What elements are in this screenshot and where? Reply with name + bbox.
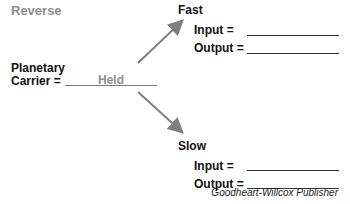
fast-input-label: Input = xyxy=(194,23,234,37)
fast-heading: Fast xyxy=(178,3,203,17)
publisher-credit: Goodheart-Willcox Publisher xyxy=(211,187,338,198)
slow-heading: Slow xyxy=(178,139,206,153)
slow-input-label: Input = xyxy=(194,159,234,173)
fast-output-label: Output = xyxy=(194,41,244,55)
slow-input-blank[interactable] xyxy=(247,170,339,171)
arrow-up-to-fast-icon xyxy=(138,22,181,63)
fast-output-blank[interactable] xyxy=(247,53,339,54)
arrow-down-to-slow-icon xyxy=(138,92,181,131)
fast-input-blank[interactable] xyxy=(247,35,339,36)
branch-arrows xyxy=(0,0,350,204)
